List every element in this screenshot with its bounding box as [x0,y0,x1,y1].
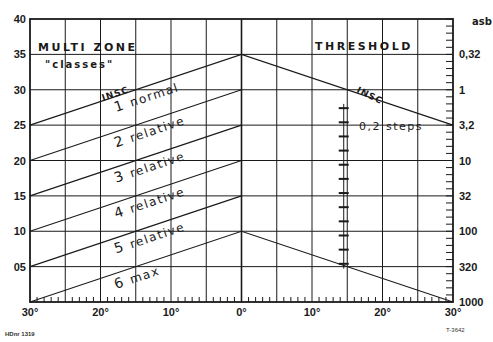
svg-text:30°: 30° [445,306,462,318]
steps-label: 0,2 steps [359,120,423,133]
svg-text:30: 30 [14,84,26,96]
insc-right-label: INSC [355,85,385,106]
title-multi-zone: MULTI ZONE [38,41,138,54]
svg-text:10°: 10° [304,306,321,318]
svg-text:30°: 30° [22,306,39,318]
subtitle-classes: "classes" [45,59,114,70]
svg-text:320: 320 [459,261,477,273]
title-threshold: THRESHOLD [315,40,413,53]
svg-text:40: 40 [14,13,26,25]
right-axis-unit: asb [472,16,492,27]
footer-left: HDnr 1319 [5,331,35,337]
svg-text:20: 20 [14,155,26,167]
svg-text:0°: 0° [236,306,247,318]
svg-text:15: 15 [14,190,26,202]
svg-text:10: 10 [14,225,26,237]
svg-text:1: 1 [459,84,465,96]
svg-text:3,2: 3,2 [459,119,474,131]
perimetry-chart: 05101520253035400,3213,21032100320100030… [0,0,493,342]
svg-text:20°: 20° [374,306,391,318]
svg-text:32: 32 [459,190,471,202]
svg-text:3 relative: 3 relative [112,147,187,186]
svg-text:100: 100 [459,225,477,237]
svg-text:5 relative: 5 relative [112,218,187,257]
svg-text:35: 35 [14,48,26,60]
footer-right: T-3642 [446,327,465,333]
svg-text:4 relative: 4 relative [112,183,187,222]
zone-labels: INSC1 normal2 relative3 relative4 relati… [100,78,186,292]
svg-text:0,32: 0,32 [459,48,480,60]
svg-text:10°: 10° [163,306,180,318]
svg-text:05: 05 [14,261,26,273]
svg-text:1000: 1000 [459,296,483,308]
svg-text:20°: 20° [92,306,109,318]
svg-text:10: 10 [459,155,471,167]
svg-text:25: 25 [14,119,26,131]
svg-text:2 relative: 2 relative [112,112,187,151]
